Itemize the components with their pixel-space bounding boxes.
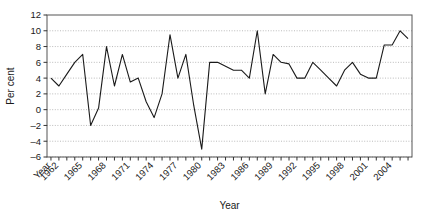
y-axis-tick-label: –6 — [30, 151, 41, 162]
y-axis-tick-label: 12 — [30, 9, 41, 20]
y-axis-tick-label: 6 — [36, 57, 41, 68]
x-axis-tick-label: 1995 — [299, 160, 322, 183]
x-axis-tick-label: 1968 — [85, 160, 108, 183]
x-axis-tick-label: 1992 — [276, 160, 299, 183]
x-axis-tick-label: 1983 — [204, 160, 227, 183]
data-series-line — [51, 31, 408, 149]
x-axis-tick-label: 1974 — [133, 160, 156, 183]
x-axis-title: Year — [219, 200, 240, 211]
y-axis-tick-label: 0 — [36, 104, 41, 115]
x-axis-tick-label: 1998 — [323, 160, 346, 183]
chart-container: –6–4–2024681012Year196219651968197119741… — [0, 0, 430, 216]
y-axis-tick-label: 2 — [36, 88, 41, 99]
x-axis-tick-label: 1986 — [228, 160, 251, 183]
x-axis-tick-label: 1980 — [180, 160, 203, 183]
y-axis-title: Per cent — [5, 67, 16, 104]
x-axis-tick-label: 2004 — [371, 160, 394, 183]
y-axis-tick-label: 10 — [30, 25, 41, 36]
y-axis-tick-label: 4 — [36, 73, 41, 84]
x-axis-tick-label: 1971 — [109, 160, 132, 183]
line-chart: –6–4–2024681012Year196219651968197119741… — [0, 0, 430, 216]
x-axis-tick-label: 1965 — [61, 160, 84, 183]
x-axis-tick-label: 1989 — [252, 160, 275, 183]
y-axis-tick-label: –4 — [30, 136, 41, 147]
y-axis-tick-label: –2 — [30, 120, 41, 131]
x-axis-tick-label: 1977 — [157, 160, 180, 183]
x-axis-tick-label: 2001 — [347, 160, 370, 183]
y-axis-tick-label: 8 — [36, 41, 41, 52]
